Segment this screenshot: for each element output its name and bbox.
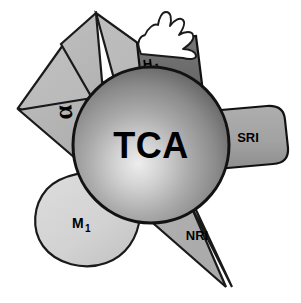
receptor-m1-label: M [72,215,84,231]
receptor-nri-label: NRI [186,228,208,243]
receptor-alpha-label: α [48,103,78,120]
tca-receptor-diagram: α NRI H 1 SRI M 1 [0,0,301,303]
tca-sphere[interactable]: TCA [73,67,229,223]
receptor-m1-subscript: 1 [85,223,91,234]
receptor-sri-label: SRI [237,130,259,145]
tca-figure-svg: α NRI H 1 SRI M 1 [0,0,301,303]
tca-sphere-label: TCA [113,125,189,166]
